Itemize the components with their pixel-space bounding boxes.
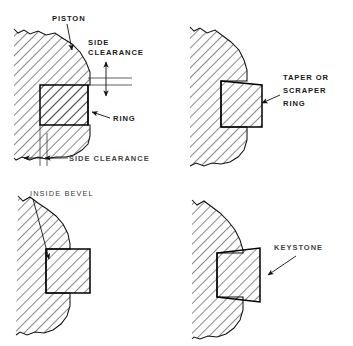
keystone-label: KEYSTONE (274, 243, 323, 252)
taper-ring-label-line3: RING (283, 99, 306, 108)
taper-ring-label-line1: TAPER OR (283, 73, 329, 82)
ring-label: RING (113, 114, 136, 123)
piston-label: PISTON (52, 14, 86, 23)
side-clearance-top-label-line1: SIDE (88, 38, 109, 47)
inside-bevel-label: INSIDE BEVEL (30, 189, 94, 198)
side-clearance-top-label-line2: CLEARANCE (88, 48, 144, 57)
figure-sheet: PISTON SIDE CLEARANCE RING SIDE CLEARANC… (0, 0, 353, 346)
ring-hatch-p2 (218, 80, 268, 130)
ring-hatch-p1 (40, 85, 88, 125)
side-clearance-bottom-label: SIDE CLEARANCE (69, 154, 150, 163)
taper-ring-label-line2: SCRAPER (283, 86, 326, 95)
piston-ring-diagram: PISTON SIDE CLEARANCE RING SIDE CLEARANC… (0, 0, 353, 346)
ring-hatch-p3 (44, 246, 94, 296)
